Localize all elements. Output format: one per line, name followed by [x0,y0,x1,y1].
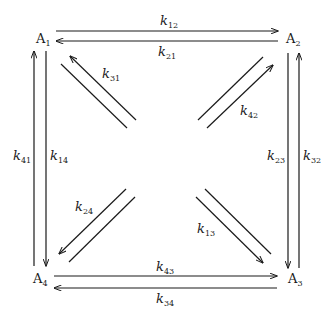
label-k14: k14 [50,148,68,165]
node-a3: A3 [287,271,302,288]
arrow-k31-lower-segment [205,189,271,254]
svg-text:A4: A4 [32,271,47,288]
node-a2: A2 [285,31,300,48]
node-a4: A4 [32,271,47,288]
label-k24: k24 [75,199,93,216]
arrow-k24 [59,189,126,254]
label-k12: k12 [160,13,178,30]
label-k32: k32 [303,148,321,165]
node-a1: A1 [35,31,50,48]
svg-text:A2: A2 [285,31,300,48]
svg-text:A3: A3 [287,271,302,288]
compartment-diagram: A1 A2 A3 A4 k12 k21 k23 k32 k43 k34 k41 … [0,0,332,312]
label-k42: k42 [240,103,258,120]
label-k31: k31 [102,66,120,83]
svg-text:A1: A1 [35,31,50,48]
label-k23: k23 [267,148,285,165]
label-k21: k21 [158,44,176,61]
label-k34: k34 [156,291,174,308]
label-k43: k43 [156,259,174,276]
label-k13: k13 [197,221,215,238]
arrow-k42 [207,65,273,128]
label-k41: k41 [13,148,31,165]
